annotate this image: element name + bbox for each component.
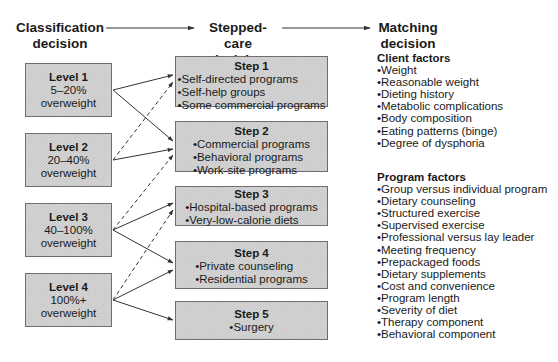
step-item: Work-site programs xyxy=(193,164,310,177)
client-factor-item: Weight xyxy=(377,64,503,76)
step-box-2: Step 2 Commercial programs Behavioral pr… xyxy=(175,121,328,172)
program-factor-item: Program length xyxy=(377,292,547,304)
step-title: Step 3 xyxy=(176,188,327,201)
level-range: 5–20% xyxy=(26,84,111,97)
step-item: Very-low-calorie diets xyxy=(185,214,318,227)
step-box-3: Step 3 Hospital-based programs Very-low-… xyxy=(175,186,328,226)
program-factor-item: Cost and convenience xyxy=(377,280,547,292)
step-item-list: Self-directed programs Self-help groups … xyxy=(178,73,326,112)
level-desc: overweight xyxy=(26,97,111,110)
step-item: Some commercial programs xyxy=(178,99,326,112)
header-matching-decision: Matching decision xyxy=(372,20,444,52)
client-factors-title: Client factors xyxy=(377,52,503,64)
client-factors-list: Client factors Weight Reasonable weight … xyxy=(377,52,503,149)
header-line: Matching xyxy=(372,20,444,36)
header-line: decision xyxy=(372,36,444,52)
step-item: Residential programs xyxy=(195,273,308,286)
step-item-list: Surgery xyxy=(229,321,273,334)
level-box-3: Level 3 40–100% overweight xyxy=(25,203,112,257)
step-item-list: Private counseling Residential programs xyxy=(195,260,308,286)
client-factor-item: Body composition xyxy=(377,112,503,124)
program-factor-item: Meeting frequency xyxy=(377,244,547,256)
client-factor-item: Metabolic complications xyxy=(377,100,503,112)
program-factors-list: Program factors Group versus individual … xyxy=(377,171,547,340)
step-item: Commercial programs xyxy=(193,138,310,151)
arrow-level2-step1-dashed xyxy=(113,82,173,160)
program-factor-item: Dietary counseling xyxy=(377,195,547,207)
level-title: Level 2 xyxy=(26,141,111,154)
program-factor-item: Professional versus lay leader xyxy=(377,231,547,243)
level-range: 100%+ xyxy=(26,294,111,307)
step-title: Step 5 xyxy=(176,308,327,321)
step-title: Step 4 xyxy=(176,247,327,260)
step-item: Hospital-based programs xyxy=(185,201,318,214)
level-title: Level 1 xyxy=(26,71,111,84)
arrow-level1-step1 xyxy=(113,75,173,90)
program-factor-item: Structured exercise xyxy=(377,207,547,219)
step-item: Self-directed programs xyxy=(178,73,326,86)
program-factor-item: Supervised exercise xyxy=(377,219,547,231)
client-factor-item: Degree of dysphoria xyxy=(377,137,503,149)
program-factor-item: Behavioral component xyxy=(377,328,547,340)
level-title: Level 3 xyxy=(26,211,111,224)
arrow-level3-step2-dashed xyxy=(113,155,173,230)
level-desc: overweight xyxy=(26,237,111,250)
arrow-level2-step2 xyxy=(113,149,173,160)
step-title: Step 1 xyxy=(176,60,327,73)
step-item: Private counseling xyxy=(195,260,308,273)
level-title: Level 4 xyxy=(26,281,111,294)
level-box-2: Level 2 20–40% overweight xyxy=(25,133,112,187)
step-item: Self-help groups xyxy=(178,86,326,99)
step-item-list: Hospital-based programs Very-low-calorie… xyxy=(185,201,318,227)
program-factor-item: Severity of diet xyxy=(377,304,547,316)
arrow-level3-step3 xyxy=(113,203,173,230)
level-box-1: Level 1 5–20% overweight xyxy=(25,63,112,117)
step-box-1: Step 1 Self-directed programs Self-help … xyxy=(175,56,328,107)
header-line: decision xyxy=(14,36,106,52)
step-item: Behavioral programs xyxy=(193,151,310,164)
program-factors-title: Program factors xyxy=(377,171,547,183)
level-box-4: Level 4 100%+ overweight xyxy=(25,273,112,327)
header-line: Classification xyxy=(14,20,106,36)
arrow-level4-step5 xyxy=(113,300,173,320)
header-line: Stepped-care xyxy=(196,20,280,52)
header-classification-decision: Classification decision xyxy=(14,20,106,52)
step-item: Surgery xyxy=(229,321,273,334)
program-factor-item: Group versus individual program xyxy=(377,183,547,195)
level-range: 20–40% xyxy=(26,154,111,167)
program-factor-item: Prepackaged foods xyxy=(377,256,547,268)
client-factor-item: Dieting history xyxy=(377,88,503,100)
program-factor-item: Therapy component xyxy=(377,316,547,328)
arrow-level1-step2 xyxy=(113,90,173,141)
arrow-level3-step4 xyxy=(113,230,173,263)
step-box-4: Step 4 Private counseling Residential pr… xyxy=(175,241,328,289)
arrow-level4-step4 xyxy=(113,270,173,300)
level-desc: overweight xyxy=(26,167,111,180)
program-factor-item: Dietary supplements xyxy=(377,268,547,280)
step-item-list: Commercial programs Behavioral programs … xyxy=(193,138,310,177)
level-desc: overweight xyxy=(26,307,111,320)
level-range: 40–100% xyxy=(26,224,111,237)
client-factor-item: Eating patterns (binge) xyxy=(377,125,503,137)
step-box-5: Step 5 Surgery xyxy=(175,301,328,340)
step-title: Step 2 xyxy=(176,125,327,138)
arrow-level4-step3-dashed xyxy=(113,210,173,300)
client-factor-item: Reasonable weight xyxy=(377,76,503,88)
